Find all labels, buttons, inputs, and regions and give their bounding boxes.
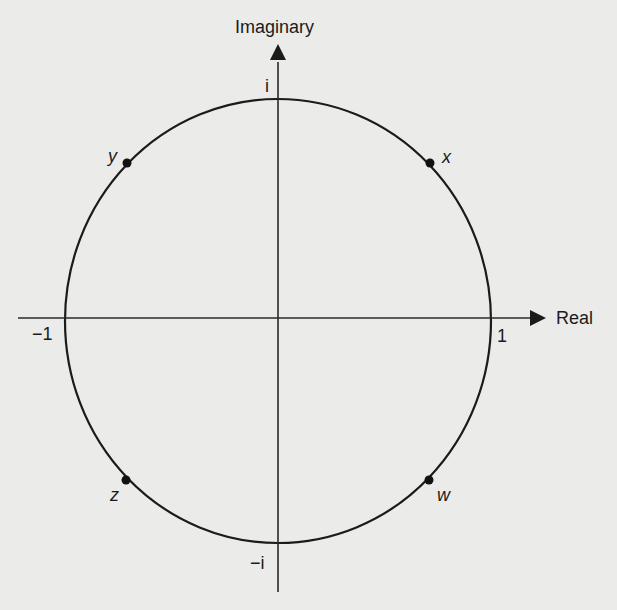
- tick-neg-1: −1: [32, 325, 53, 343]
- point-w-marker: [425, 476, 434, 485]
- point-x-label: x: [442, 148, 451, 166]
- point-w-label: w: [437, 486, 450, 504]
- diagram-page: Imaginary Real i −i −1 1 x y z w: [0, 0, 617, 610]
- real-axis-arrow-icon: [530, 310, 546, 326]
- tick-1: 1: [497, 327, 507, 345]
- tick-neg-i: −i: [250, 554, 265, 572]
- point-y-label: y: [108, 147, 117, 165]
- imaginary-axis-arrow-icon: [270, 44, 286, 60]
- complex-plane-figure: [0, 0, 617, 610]
- real-axis-label: Real: [556, 309, 593, 327]
- point-z-marker: [122, 476, 131, 485]
- tick-i: i: [265, 77, 269, 95]
- point-y-marker: [123, 159, 132, 168]
- point-z-label: z: [110, 486, 119, 504]
- point-x-marker: [426, 159, 435, 168]
- imaginary-axis-label: Imaginary: [235, 18, 314, 36]
